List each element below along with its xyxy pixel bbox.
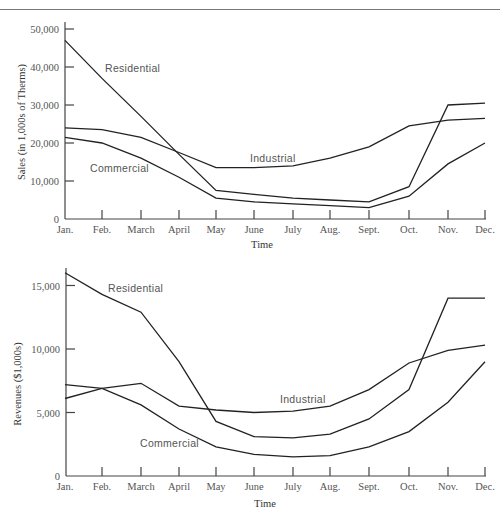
x-tick-label: April bbox=[168, 224, 190, 235]
x-tick-label: May bbox=[206, 481, 226, 492]
x-tick-label: Dec. bbox=[475, 224, 495, 235]
x-tick-label: Jan. bbox=[57, 224, 74, 235]
series-line-industrial bbox=[65, 345, 485, 412]
x-tick-label: July bbox=[284, 481, 302, 492]
x-tick-label: May bbox=[206, 224, 226, 235]
x-tick-label: Dec. bbox=[475, 481, 495, 492]
revenues-commercial-label: Commercial bbox=[140, 437, 199, 449]
revenues-series bbox=[65, 273, 485, 457]
x-tick-label: Oct. bbox=[400, 224, 418, 235]
sales-x-axis-title: Time bbox=[251, 239, 273, 250]
sales-chart: 010,00020,00030,00040,00050,000 Jan.Feb.… bbox=[16, 22, 495, 250]
x-tick-label: March bbox=[127, 481, 155, 492]
x-tick-label: Feb. bbox=[93, 481, 111, 492]
y-tick-label: 20,000 bbox=[30, 138, 59, 149]
x-tick-label: March bbox=[127, 224, 155, 235]
sales-x-ticks: Jan.Feb.MarchAprilMayJuneJulyAug.Sept.Oc… bbox=[57, 210, 495, 235]
revenues-residential-label: Residential bbox=[108, 282, 163, 294]
revenues-x-axis-title: Time bbox=[254, 498, 276, 509]
y-tick-label: 50,000 bbox=[30, 24, 59, 35]
x-tick-label: July bbox=[284, 224, 302, 235]
y-tick-label: 15,000 bbox=[31, 281, 60, 292]
x-tick-label: Aug. bbox=[320, 224, 341, 235]
revenues-y-axis-title: Revenues ($1,000s) bbox=[12, 342, 24, 426]
revenues-chart: 05,00010,00015,000 Jan.Feb.MarchAprilMay… bbox=[12, 268, 495, 509]
series-line-commercial bbox=[65, 362, 485, 457]
x-tick-label: April bbox=[168, 481, 190, 492]
revenues-x-ticks: Jan.Feb.MarchAprilMayJuneJulyAug.Sept.Oc… bbox=[57, 467, 495, 492]
sales-y-axis-title: Sales (in 1,000s of Therms) bbox=[16, 63, 28, 180]
x-tick-label: Sept. bbox=[358, 224, 379, 235]
y-tick-label: 5,000 bbox=[36, 408, 60, 419]
x-tick-label: Jan. bbox=[57, 481, 74, 492]
series-line-residential bbox=[65, 273, 485, 438]
revenues-y-ticks: 05,00010,00015,000 bbox=[31, 281, 75, 483]
x-tick-label: Nov. bbox=[438, 481, 458, 492]
revenues-industrial-label: Industrial bbox=[280, 393, 326, 405]
x-tick-label: June bbox=[244, 481, 264, 492]
x-tick-label: June bbox=[244, 224, 264, 235]
y-tick-label: 10,000 bbox=[31, 344, 60, 355]
y-tick-label: 30,000 bbox=[30, 100, 59, 111]
sales-industrial-label: Industrial bbox=[250, 152, 296, 164]
x-tick-label: Feb. bbox=[93, 224, 111, 235]
charts-canvas: 010,00020,00030,00040,00050,000 Jan.Feb.… bbox=[0, 0, 504, 516]
x-tick-label: Aug. bbox=[320, 481, 341, 492]
x-tick-label: Nov. bbox=[438, 224, 458, 235]
y-tick-label: 40,000 bbox=[30, 62, 59, 73]
x-tick-label: Sept. bbox=[358, 481, 379, 492]
x-tick-label: Oct. bbox=[400, 481, 418, 492]
sales-residential-label: Residential bbox=[105, 62, 160, 74]
sales-y-ticks: 010,00020,00030,00040,00050,000 bbox=[30, 24, 74, 225]
sales-commercial-label: Commercial bbox=[90, 162, 149, 174]
y-tick-label: 10,000 bbox=[30, 176, 59, 187]
